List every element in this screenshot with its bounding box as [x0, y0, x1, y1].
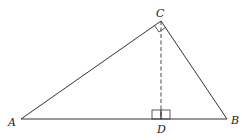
right-angle-mark-d-left — [152, 110, 161, 119]
right-angle-mark-c — [155, 26, 166, 33]
side-cb — [161, 21, 227, 119]
triangle-diagram: A B C D — [0, 0, 242, 140]
side-ac — [21, 21, 161, 119]
label-b: B — [230, 114, 239, 127]
label-d: D — [156, 123, 166, 136]
right-angle-mark-d-right — [161, 110, 170, 119]
label-c: C — [156, 7, 165, 20]
label-a: A — [7, 116, 16, 129]
